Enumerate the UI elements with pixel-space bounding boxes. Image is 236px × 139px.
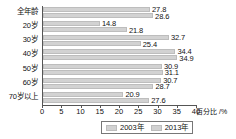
bar-value-label: 28.7 (155, 83, 169, 91)
bar-group: 32.725.4 (43, 35, 197, 49)
bar (43, 64, 162, 69)
y-axis-label-5: 60岁 (23, 79, 38, 87)
legend-item-0: 2003年 (106, 124, 144, 132)
bar-value-label: 27.6 (151, 97, 165, 105)
bar (43, 49, 175, 54)
bar (43, 70, 163, 75)
bar-value-label: 25.4 (143, 41, 157, 49)
x-axis-tick-label: 35 (173, 108, 181, 116)
bar-chart: 全年龄20岁30岁40岁50岁60岁70岁以上 27.828.614.821.8… (0, 0, 236, 139)
x-axis-title: 百分比 /% (196, 108, 227, 116)
x-axis-tick-label: 20 (115, 108, 123, 116)
bar-group: 20.927.6 (43, 92, 197, 106)
bar (43, 55, 177, 60)
bar-value-label: 34.9 (179, 55, 193, 63)
bar (43, 41, 141, 46)
bar-value-label: 21.8 (129, 27, 143, 35)
y-axis-label-6: 70岁以上 (9, 93, 38, 101)
y-axis-label-0: 全年龄 (17, 8, 38, 16)
legend-item-1: 2013年 (151, 124, 189, 132)
bar-group: 30.728.7 (43, 78, 197, 92)
bar-value-label: 32.7 (171, 34, 185, 42)
bar (43, 98, 149, 103)
y-axis-label-4: 50岁 (23, 65, 38, 73)
plot-area: 27.828.614.821.832.725.434.434.930.931.1… (42, 6, 197, 106)
x-axis-tick-label: 10 (76, 108, 84, 116)
bar (43, 92, 123, 97)
bar (43, 84, 153, 89)
x-axis-tick-label: 0 (40, 108, 44, 116)
x-axis-tick-label: 15 (96, 108, 104, 116)
y-axis-label-2: 30岁 (23, 36, 38, 44)
bar (43, 78, 161, 83)
x-axis-tick-label: 30 (153, 108, 161, 116)
bar (43, 13, 153, 18)
bar-group: 27.828.6 (43, 7, 197, 21)
bar (43, 21, 100, 26)
bar (43, 27, 127, 32)
legend-label: 2003年 (120, 124, 144, 132)
bar-value-label: 28.6 (155, 13, 169, 21)
x-axis: 0510152025303540 (42, 105, 196, 117)
legend: 2003年2013年 (101, 121, 193, 134)
legend-label: 2013年 (165, 124, 189, 132)
y-axis-label-3: 40岁 (23, 50, 38, 58)
y-axis-label-1: 20岁 (23, 22, 38, 30)
x-axis-tick-label: 25 (134, 108, 142, 116)
bar (43, 7, 150, 12)
x-axis-tick-label: 5 (59, 108, 63, 116)
legend-swatch (151, 125, 162, 131)
legend-swatch (106, 125, 117, 131)
